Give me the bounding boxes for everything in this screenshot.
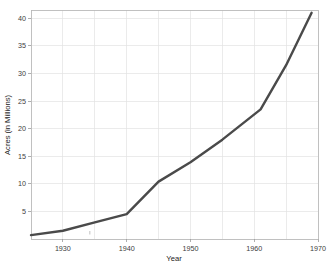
y-tick-label: 5 bbox=[22, 207, 26, 216]
line-chart: 510152025303540 19301940195019601970 Yea… bbox=[0, 0, 327, 267]
x-axis-title: Year bbox=[166, 254, 182, 263]
y-tick-label: 10 bbox=[18, 179, 26, 188]
chart-canvas: 510152025303540 19301940195019601970 Yea… bbox=[0, 0, 327, 267]
x-tick-label: 1940 bbox=[119, 244, 135, 253]
x-axis-ticks: 19301940195019601970 bbox=[55, 239, 326, 253]
x-tick-label: 1970 bbox=[310, 244, 326, 253]
y-tick-label: 35 bbox=[18, 41, 26, 50]
x-tick-label: 1950 bbox=[182, 244, 198, 253]
y-tick-label: 25 bbox=[18, 97, 26, 106]
y-tick-label: 30 bbox=[18, 69, 26, 78]
y-axis-ticks: 510152025303540 bbox=[18, 14, 31, 216]
y-axis-title: Acres (in Millions) bbox=[3, 95, 12, 155]
y-tick-label: 15 bbox=[18, 152, 26, 161]
x-tick-label: 1960 bbox=[246, 244, 262, 253]
plot-background bbox=[31, 10, 318, 239]
y-tick-label: 20 bbox=[18, 124, 26, 133]
background-artifact bbox=[89, 231, 91, 235]
x-tick-label: 1930 bbox=[55, 244, 71, 253]
y-tick-label: 40 bbox=[18, 14, 26, 23]
